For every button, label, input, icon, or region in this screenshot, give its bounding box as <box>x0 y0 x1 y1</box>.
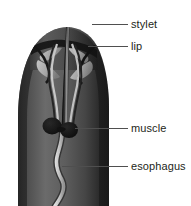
body-overlay-shade <box>18 27 109 206</box>
anatomy-figure: stylet lip muscle esophagus <box>0 0 191 206</box>
label-esophagus: esophagus <box>131 160 186 172</box>
anatomy-diagram <box>0 0 191 206</box>
stylet-tip <box>67 14 70 17</box>
internal-structures <box>18 14 109 206</box>
label-lip: lip <box>131 40 142 52</box>
label-muscle: muscle <box>131 122 166 134</box>
label-stylet: stylet <box>131 18 157 30</box>
